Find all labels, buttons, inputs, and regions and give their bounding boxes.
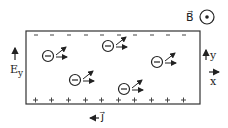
- electron: [70, 71, 95, 86]
- positive-surface-charges: [33, 98, 186, 103]
- electron: [43, 47, 68, 62]
- electron: [119, 80, 144, 95]
- e-field-label: Ey: [10, 64, 23, 78]
- b-field-label: B⃗: [186, 12, 194, 23]
- hall-effect-diagram: B⃗ Ey y x j⃗: [0, 0, 228, 128]
- y-axis-label: y: [210, 50, 216, 61]
- current-density-label: j⃗: [101, 111, 104, 122]
- e-field-symbol: E: [10, 63, 18, 76]
- x-axis-label: x: [210, 76, 216, 87]
- e-field-subscript: y: [18, 68, 23, 78]
- electron: [103, 37, 128, 52]
- electron: [152, 53, 177, 68]
- conductor-slab: [26, 31, 200, 104]
